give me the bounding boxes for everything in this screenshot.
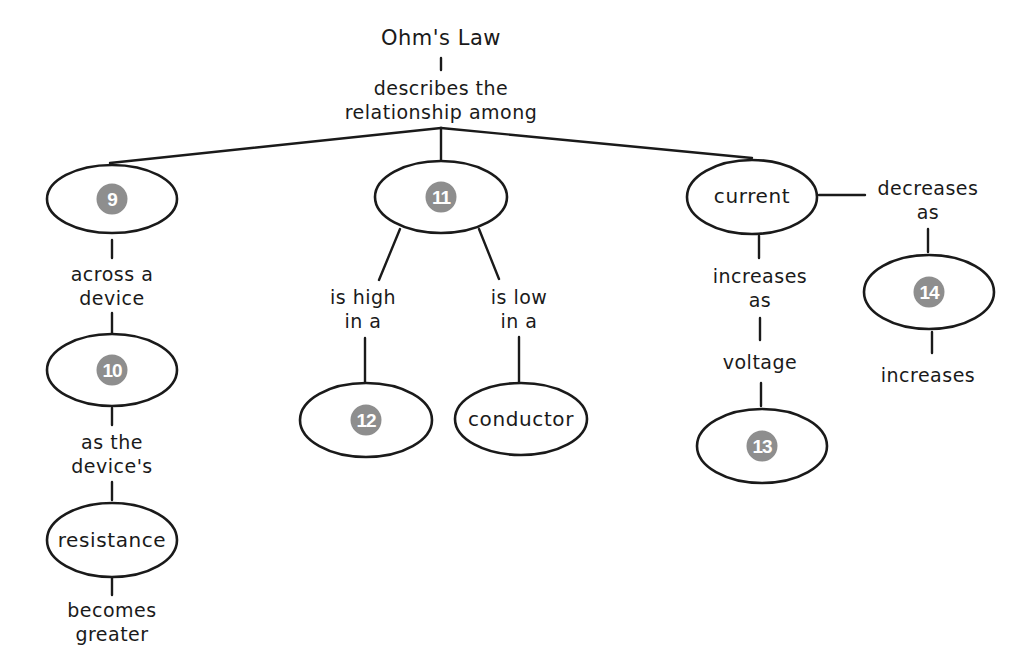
blank-14-badge[interactable]: 14: [914, 277, 945, 308]
link-increases-as-line2: as: [749, 288, 772, 312]
root-link-line1: describes the: [374, 76, 509, 100]
link-is-low-line1: is low: [491, 285, 548, 309]
link-is-high-line2: in a: [344, 309, 381, 333]
link-voltage: voltage: [723, 350, 798, 374]
edge-root-to-current: [441, 128, 752, 158]
link-is-low-line2: in a: [500, 309, 537, 333]
link-is-high-line1: is high: [330, 285, 396, 309]
link-decreases-line2: as: [917, 200, 940, 224]
link-becomes-line1: becomes: [67, 598, 156, 622]
link-across-line1: across a: [71, 262, 154, 286]
edge-n11-high: [379, 229, 400, 280]
node-conductor-label: conductor: [468, 407, 574, 431]
link-increases-as-line1: increases: [713, 264, 807, 288]
root-link-line2: relationship among: [345, 100, 538, 124]
edge-n11-low: [479, 229, 499, 279]
blank-10-badge[interactable]: 10: [97, 355, 128, 386]
blank-12-badge[interactable]: 12: [351, 405, 382, 436]
edge-root-to-n9: [110, 128, 441, 163]
link-becomes-line2: greater: [75, 622, 148, 646]
blank-13-badge[interactable]: 13: [747, 431, 778, 462]
link-decreases-line1: decreases: [878, 176, 979, 200]
link-increases: increases: [881, 363, 975, 387]
link-across-line2: device: [79, 286, 144, 310]
concept-map-title: Ohm's Law: [381, 26, 501, 50]
link-as-the-line2: device's: [71, 454, 153, 478]
node-current-label: current: [714, 184, 790, 208]
link-as-the-line1: as the: [81, 430, 143, 454]
blank-9-badge[interactable]: 9: [97, 184, 128, 215]
node-resistance-label: resistance: [58, 528, 167, 552]
blank-11-badge[interactable]: 11: [426, 182, 457, 213]
